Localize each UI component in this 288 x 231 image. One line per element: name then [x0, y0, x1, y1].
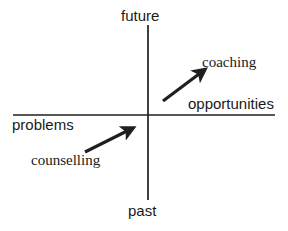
counselling-arrow — [85, 129, 131, 152]
quadrant-diagram: future past problems opportunities coach… — [0, 0, 288, 231]
axis-label-opportunities: opportunities — [188, 96, 274, 111]
axis-label-future: future — [121, 8, 159, 23]
axis-label-problems: problems — [12, 117, 74, 132]
annotation-label-counselling: counselling — [31, 153, 100, 168]
axis-label-past: past — [128, 203, 156, 218]
annotation-label-coaching: coaching — [202, 55, 256, 70]
